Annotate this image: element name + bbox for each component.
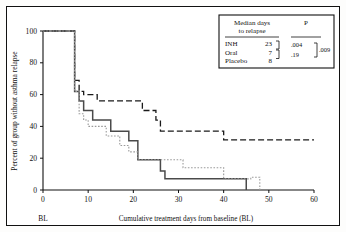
legend-box: Median days to relapse P INH 23 Oral 7 P… [219, 15, 334, 68]
y-tick-label-20: 20 [29, 154, 37, 163]
y-tick-label-80: 80 [29, 58, 37, 67]
legend-row-group-0: INH [225, 40, 237, 48]
legend-p-header: P [304, 19, 308, 27]
legend-row-group-2: Placebo [225, 57, 248, 65]
x-axis-ticks: 0102030405060 [41, 190, 318, 204]
legend-header-line1: Median days [234, 19, 270, 27]
survival-curve-chart: 020406080100 0102030405060 Percent of gr… [0, 0, 346, 232]
p-value-inh-oral: .004 [291, 41, 303, 48]
x-tick-label-20: 20 [130, 195, 138, 204]
legend-row-value-2: 8 [269, 57, 273, 65]
x-tick-label-0: 0 [41, 195, 45, 204]
y-axis-ticks: 020406080100 [26, 27, 43, 195]
legend-row-group-1: Oral [225, 49, 237, 57]
legend-header-line2: to relapse [238, 27, 265, 35]
x-tick-label-30: 30 [175, 195, 183, 204]
y-tick-label-60: 60 [29, 90, 37, 99]
x-tick-label-10: 10 [84, 195, 92, 204]
figure-container: 020406080100 0102030405060 Percent of gr… [0, 0, 346, 232]
x-tick-label-50: 50 [265, 195, 273, 204]
y-axis-title: Percent of group without asthma relapse [10, 51, 19, 171]
x-tick-label-60: 60 [310, 195, 318, 204]
x-axis-title: Cumulative treatment days from baseline … [119, 215, 254, 223]
legend-row-value-0: 23 [265, 40, 273, 48]
p-value-oral-placebo: .19 [291, 51, 299, 58]
baseline-label: BL [38, 214, 48, 223]
y-tick-label-100: 100 [26, 27, 38, 36]
p-value-overall: .009 [319, 46, 330, 53]
y-tick-label-40: 40 [29, 122, 37, 131]
x-tick-label-40: 40 [220, 195, 228, 204]
legend-row-value-1: 7 [269, 49, 273, 57]
y-tick-label-0: 0 [33, 186, 37, 195]
